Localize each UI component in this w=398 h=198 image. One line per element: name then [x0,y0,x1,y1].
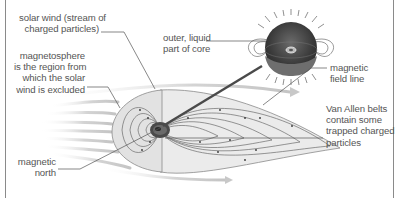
label-solar-wind: solar wind (stream of charged particles) [19,12,99,34]
magnetotail [160,90,340,173]
diagram-frame: solar wind (stream of charged particles)… [0,0,398,198]
label-magnetosphere: magnetosphere is the region from which t… [14,50,85,95]
label-magnetic-north: magnetic north [14,156,56,178]
label-field-line: magnetic field line [330,62,368,84]
leader-solar-wind [101,32,155,89]
label-outer-core: outer, liquid part of core [163,32,211,54]
core-sphere [265,22,317,76]
label-van-allen: Van Allen belts contain some trapped cha… [326,103,394,148]
